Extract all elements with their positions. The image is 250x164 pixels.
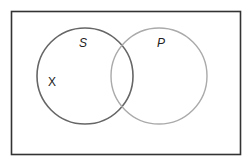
set-p-label: P [157,36,165,50]
element-x-label: X [48,75,56,89]
set-s-label: S [79,36,87,50]
venn-diagram: S P X [0,0,250,164]
